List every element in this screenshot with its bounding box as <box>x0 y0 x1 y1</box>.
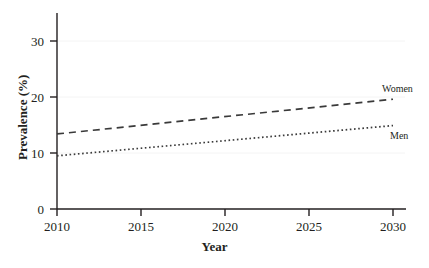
x-tick-label-2015: 2015 <box>113 220 169 233</box>
series-label-men: Men <box>390 131 408 141</box>
y-axis-title: Prevalence (%) <box>16 75 29 160</box>
prevalence-line-chart: 30 20 10 0 2010 2015 2020 2025 2030 Prev… <box>0 0 429 268</box>
x-tick-label-2030: 2030 <box>365 220 421 233</box>
y-tick-label-0: 0 <box>22 203 44 216</box>
x-tick-label-2025: 2025 <box>281 220 337 233</box>
y-axis <box>50 13 57 209</box>
series-label-women: Women <box>382 84 413 94</box>
gridlines <box>57 41 405 153</box>
x-axis <box>57 209 406 216</box>
x-axis-title: Year <box>0 240 429 253</box>
x-tick-label-2010: 2010 <box>29 220 85 233</box>
y-tick-label-30: 30 <box>22 35 44 48</box>
series-line-women <box>57 99 393 134</box>
series-line-men <box>57 126 393 156</box>
x-tick-label-2020: 2020 <box>197 220 253 233</box>
